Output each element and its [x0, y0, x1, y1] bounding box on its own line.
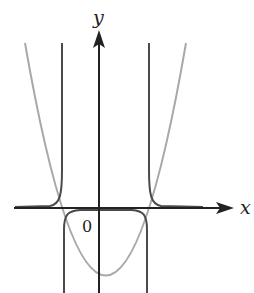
reciprocal-middle-branch [64, 210, 147, 293]
function-graph: y x 0 [0, 0, 254, 293]
parabola-curve [25, 43, 186, 276]
x-axis-label: x [240, 196, 251, 218]
y-axis-label: y [92, 6, 104, 28]
origin-label: 0 [82, 217, 92, 236]
